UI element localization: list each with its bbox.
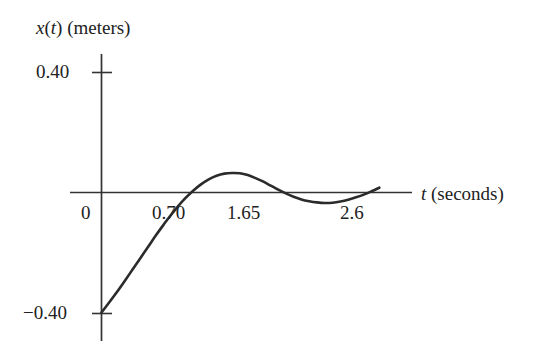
x-axis-title-units: (seconds) — [426, 183, 504, 204]
x-tick-label-2.6: 2.6 — [340, 203, 364, 222]
y-axis-title-units: (meters) — [62, 17, 130, 38]
y-tick-label-0.40: 0.40 — [36, 62, 69, 81]
y-axis-title: x(t) (meters) — [36, 18, 130, 37]
plot-canvas — [0, 0, 551, 354]
x-axis-title: t (seconds) — [421, 184, 504, 203]
x-tick-label-1.65: 1.65 — [227, 203, 260, 222]
chart-figure: x(t) (meters) t (seconds) 0.40 −0.40 0 0… — [0, 0, 551, 354]
x-tick-label-0.70: 0.70 — [152, 203, 185, 222]
data-curve-x-of-t — [102, 173, 380, 313]
y-tick-label-minus-0.40: −0.40 — [23, 303, 67, 322]
x-tick-label-0: 0 — [81, 203, 91, 222]
